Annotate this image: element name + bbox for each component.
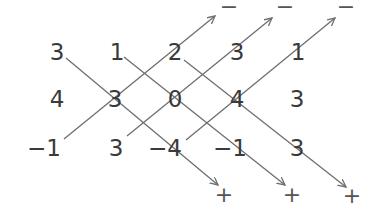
cell-r2-c2: 3 bbox=[108, 88, 123, 111]
cell-r2-c3: 0 bbox=[168, 88, 183, 111]
negative-diagonal-1 bbox=[64, 16, 215, 139]
cell-r1-c2: 1 bbox=[110, 41, 125, 64]
cell-r1-c5: 1 bbox=[291, 41, 306, 64]
positive-diagonal-1 bbox=[66, 58, 218, 185]
cell-r3-c2: 3 bbox=[109, 137, 124, 160]
plus-sign-1: + bbox=[215, 184, 233, 206]
cell-r1-c4: 3 bbox=[230, 41, 245, 64]
cell-r2-c1: 4 bbox=[50, 88, 65, 111]
plus-sign-3: + bbox=[343, 185, 361, 207]
cell-r3-c4: −1 bbox=[213, 137, 247, 160]
cell-r3-c5: 3 bbox=[290, 137, 305, 160]
cell-r2-c4: 4 bbox=[230, 88, 245, 111]
cell-r3-c1: −1 bbox=[27, 137, 61, 160]
cell-r1-c3: 2 bbox=[168, 41, 183, 64]
minus-sign-3: − bbox=[337, 0, 355, 18]
minus-sign-1: − bbox=[220, 0, 238, 18]
plus-sign-2: + bbox=[283, 184, 301, 206]
minus-sign-2: − bbox=[276, 0, 294, 18]
cell-r2-c5: 3 bbox=[290, 88, 305, 111]
cell-r1-c1: 3 bbox=[50, 41, 65, 64]
sarrus-diagram: 3 1 2 3 1 4 3 0 4 3 −1 3 −4 −1 3 − − − +… bbox=[0, 0, 377, 220]
cell-r3-c3: −4 bbox=[148, 137, 182, 160]
